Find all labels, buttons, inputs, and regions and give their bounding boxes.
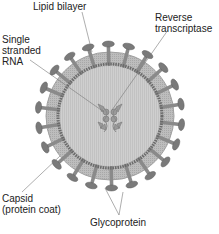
label-glycoprotein: Glycoprotein: [90, 217, 146, 228]
label-reverse-transcriptase-line1: Reverse: [155, 12, 212, 23]
label-rna-line2: stranded: [2, 45, 41, 56]
label-capsid-line1: Capsid: [2, 193, 61, 204]
leader-line-glycoprotein-1: [105, 188, 119, 215]
label-capsid-line2: (protein coat): [2, 204, 61, 215]
label-reverse-transcriptase-line2: transcriptase: [155, 23, 212, 34]
virus-core: [60, 66, 160, 166]
label-reverse-transcriptase: Reverse transcriptase: [155, 12, 212, 34]
label-rna-line3: RNA: [2, 56, 41, 67]
label-rna-line1: Single: [2, 34, 41, 45]
label-capsid: Capsid (protein coat): [2, 193, 61, 215]
label-single-stranded-rna: Single stranded RNA: [2, 34, 41, 67]
label-lipid-bilayer: Lipid bilayer: [33, 1, 86, 12]
leader-line-glycoprotein-2: [119, 192, 123, 215]
leader-line-capsid: [22, 156, 60, 192]
